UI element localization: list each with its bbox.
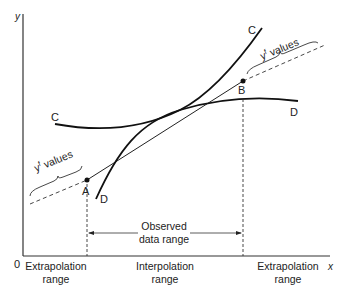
interpolation-extrapolation-diagram: y x 0 C C D D A B yf values yf values — [0, 0, 346, 300]
curve-d — [96, 98, 298, 199]
point-a — [85, 178, 90, 183]
curve-c-label-right: C — [248, 24, 256, 36]
right-extrapolation-line1: Extrapolation — [257, 260, 318, 272]
curve-d-label-left: D — [100, 193, 108, 205]
left-extrapolation-line1: Extrapolation — [25, 260, 86, 272]
right-yf-values-label: yf values — [258, 36, 300, 62]
observed-label-line1: Observed — [141, 220, 187, 232]
point-a-label: A — [82, 185, 90, 197]
x-axis-label: x — [327, 261, 334, 272]
point-b-label: B — [238, 84, 245, 96]
curve-c-label-left: C — [51, 111, 59, 123]
origin-label: 0 — [14, 258, 20, 270]
left-extrapolation-line2: range — [43, 273, 70, 285]
arrowhead-left — [88, 231, 94, 235]
arrowhead-right — [236, 231, 242, 235]
right-extrapolation-line2: range — [275, 273, 302, 285]
left-yf-values-brace: yf values — [30, 148, 82, 196]
y-axis-label: y — [14, 11, 21, 22]
point-b — [241, 79, 246, 84]
interpolation-line1: Interpolation — [136, 260, 194, 272]
observed-label-line2: data range — [139, 233, 189, 245]
left-yf-values-label: yf values — [32, 148, 74, 174]
tangent-line — [87, 81, 243, 180]
right-yf-values-brace: yf values — [247, 36, 318, 74]
observed-data-range: Observed data range — [88, 220, 242, 245]
interpolation-line2: range — [152, 273, 179, 285]
tangent-line-left-dashed — [30, 180, 87, 204]
curve-d-label-right: D — [290, 106, 298, 118]
curve-c — [55, 28, 262, 128]
